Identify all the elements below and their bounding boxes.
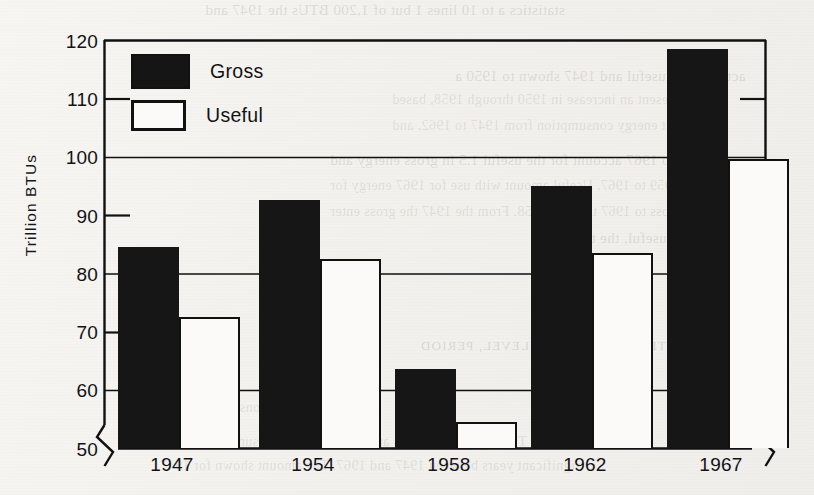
x-axis-label-1947: 1947	[112, 455, 232, 474]
legend-swatch-gross	[131, 54, 190, 89]
y-axis-break-left	[97, 425, 113, 466]
bar-gross-1958	[395, 369, 456, 448]
bar-useful-1962	[592, 253, 653, 448]
bar-gross-1967	[667, 49, 728, 448]
bar-useful-1967	[728, 159, 789, 448]
legend-item-useful: Useful	[131, 96, 264, 134]
x-axis-label-1967: 1967	[661, 455, 781, 474]
y-axis-label-110: 110	[38, 90, 98, 109]
bar-useful-1954	[320, 259, 381, 448]
y-axis-label-120: 120	[38, 32, 98, 51]
bar-useful-1947	[179, 317, 240, 448]
x-axis-label-1962: 1962	[525, 455, 645, 474]
legend-label-gross: Gross	[210, 60, 264, 83]
bar-useful-1958	[456, 422, 517, 448]
y-axis-label-90: 90	[38, 207, 98, 226]
bar-chart: Trillion BTUs 120 110 100 90 80 70 60 50…	[0, 0, 814, 495]
y-axis-label-50: 50	[38, 440, 98, 459]
legend-item-gross: Gross	[131, 52, 264, 90]
y-axis-label-70: 70	[38, 323, 98, 342]
x-axis-label-1958: 1958	[389, 455, 509, 474]
bar-gross-1947	[118, 247, 179, 448]
y-axis-label-100: 100	[38, 148, 98, 167]
bar-gross-1962	[531, 186, 592, 448]
y-axis-label-80: 80	[38, 265, 98, 284]
bar-gross-1954	[259, 200, 320, 448]
legend-label-useful: Useful	[206, 104, 263, 127]
x-axis-label-1954: 1954	[253, 455, 373, 474]
legend-swatch-useful	[131, 100, 186, 131]
y-axis-label-60: 60	[38, 381, 98, 400]
legend: Gross Useful	[131, 52, 264, 140]
